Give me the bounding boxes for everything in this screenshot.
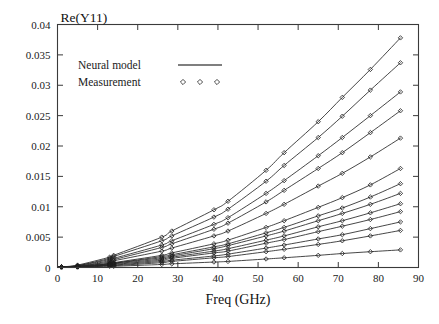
x-tick-label: 80 [373, 272, 385, 284]
y-tick-label: 0.005 [26, 231, 51, 243]
chart-canvas: 00.0050.010.0150.020.0250.030.0350.04 01… [0, 0, 439, 324]
y-tick-label: 0 [45, 262, 51, 274]
legend-label: Measurement [78, 76, 141, 88]
y-tick-label: 0.02 [31, 140, 50, 152]
x-tick-label: 40 [212, 272, 224, 284]
y-tick-label: 0.025 [26, 110, 51, 122]
legend-label: Neural model [78, 59, 141, 71]
x-tick-label: 90 [413, 272, 425, 284]
x-tick-label: 70 [333, 272, 345, 284]
y-tick-label: 0.03 [31, 79, 51, 91]
x-tick-label: 0 [55, 272, 61, 284]
figure-container: 00.0050.010.0150.020.0250.030.0350.04 01… [0, 0, 439, 324]
x-axis-label: Freq (GHz) [206, 292, 271, 308]
y-tick-label: 0.015 [26, 170, 51, 182]
y-tick-label: 0.035 [26, 49, 51, 61]
x-tick-label: 30 [172, 272, 184, 284]
page-title: Re(Y11) [61, 10, 108, 25]
x-tick-label: 20 [132, 272, 144, 284]
x-tick-label: 10 [92, 272, 104, 284]
y-tick-label: 0.04 [31, 19, 51, 31]
y-tick-label: 0.01 [31, 201, 50, 213]
x-tick-label: 50 [253, 272, 265, 284]
x-tick-label: 60 [293, 272, 305, 284]
